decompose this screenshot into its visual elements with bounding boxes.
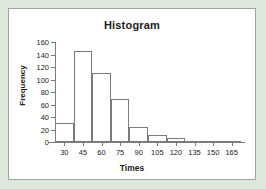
y-tick-label: 140	[36, 50, 49, 59]
histogram-bar	[129, 127, 148, 142]
y-tick-label: 20	[41, 125, 49, 134]
x-tick	[232, 142, 233, 146]
y-tick	[51, 105, 55, 106]
x-tick	[64, 142, 65, 146]
x-tick-label: 105	[151, 148, 164, 157]
histogram-bar	[92, 73, 111, 142]
x-tick-label: 150	[207, 148, 220, 157]
x-tick	[83, 142, 84, 146]
x-tick	[139, 142, 140, 146]
y-tick	[51, 117, 55, 118]
y-tick-label: 0	[45, 138, 49, 147]
histogram-bar	[74, 51, 93, 142]
histogram-bar	[167, 138, 186, 142]
x-tick-label: 120	[170, 148, 183, 157]
histogram-bar	[204, 141, 223, 142]
x-axis-line	[49, 142, 245, 143]
histogram-bar	[55, 123, 74, 142]
y-tick-label: 160	[36, 38, 49, 47]
y-tick	[51, 42, 55, 43]
y-tick-label: 40	[41, 113, 49, 122]
x-tick-label: 90	[135, 148, 143, 157]
y-tick	[51, 92, 55, 93]
y-tick	[51, 55, 55, 56]
plot-area: 020406080100120140160 304560759010512013…	[55, 42, 241, 142]
y-tick	[51, 80, 55, 81]
x-tick	[157, 142, 158, 146]
histogram-bar	[185, 141, 204, 142]
x-tick	[195, 142, 196, 146]
y-tick-label: 120	[36, 63, 49, 72]
chart-title: Histogram	[9, 19, 255, 31]
chart-panel: Histogram Frequency 02040608010012014016…	[8, 8, 256, 180]
x-tick	[120, 142, 121, 146]
x-tick-label: 60	[97, 148, 105, 157]
x-tick-label: 30	[60, 148, 68, 157]
x-tick	[102, 142, 103, 146]
histogram-bar	[222, 141, 241, 142]
x-axis-label: Times	[9, 163, 255, 173]
x-tick	[176, 142, 177, 146]
y-tick	[51, 142, 55, 143]
x-tick-label: 45	[79, 148, 87, 157]
y-tick	[51, 67, 55, 68]
y-tick-label: 60	[41, 100, 49, 109]
histogram-bar	[111, 99, 130, 142]
x-tick-label: 165	[225, 148, 238, 157]
histogram-bar	[148, 135, 167, 142]
y-tick-label: 80	[41, 88, 49, 97]
x-tick-label: 75	[116, 148, 124, 157]
x-tick	[213, 142, 214, 146]
y-tick-label: 100	[36, 75, 49, 84]
x-tick-label: 135	[188, 148, 201, 157]
y-axis-label: Frequency	[18, 51, 27, 121]
